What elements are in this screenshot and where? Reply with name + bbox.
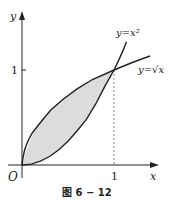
shaded-region (22, 70, 114, 165)
x-axis-arrow-icon (150, 162, 159, 168)
y-tick-label: 1 (11, 64, 18, 77)
figure-caption: 图 6 − 12 (62, 187, 112, 198)
curve2-label: y=√x (137, 64, 164, 75)
origin-label: O (8, 170, 18, 184)
x-tick-label: 1 (111, 170, 118, 183)
x-axis-label: x (150, 170, 157, 183)
figure-canvas: y x O 1 1 y=x² y=√x 图 6 − 12 (0, 0, 170, 200)
y-axis-label: y (9, 10, 17, 23)
y-axis-arrow-icon (19, 11, 25, 20)
curve1-label: y=x² (115, 27, 140, 38)
